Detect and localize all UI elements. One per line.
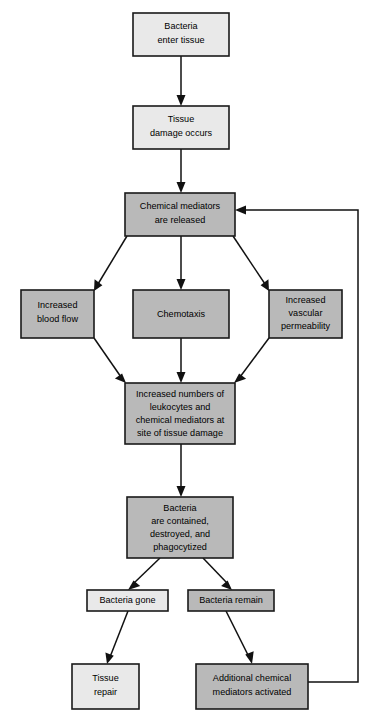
node-label-line: Increased — [38, 300, 78, 310]
node-label-line: enter tissue — [157, 35, 204, 45]
node-label-line: Additional chemical — [213, 673, 291, 683]
node-increased-vascular-permeability[interactable]: Increased vascular permeability — [269, 290, 342, 338]
node-label-line: blood flow — [37, 314, 78, 324]
node-label-line: vascular — [289, 308, 323, 318]
edge-mediators-to-chemotaxis — [177, 236, 186, 290]
node-label-line: Bacteria remain — [199, 595, 263, 605]
node-label-line: are released — [155, 215, 206, 225]
node-bacteria-enter-tissue[interactable]: Bacteria enter tissue — [133, 13, 229, 56]
edge-enter-to-damage — [177, 56, 186, 106]
node-label-line: mediators activated — [213, 687, 292, 697]
node-additional-chemical-mediators-activated[interactable]: Additional chemical mediators activated — [196, 664, 308, 709]
node-label-line: phagocytized — [153, 542, 207, 552]
edge-contained-to-remain — [203, 558, 232, 590]
node-label-line: Bacteria — [163, 503, 197, 513]
edge-contained-to-gone — [128, 558, 160, 590]
node-increased-blood-flow[interactable]: Increased blood flow — [21, 290, 94, 338]
node-label-line: Bacteria — [164, 21, 198, 31]
node-label-line: destroyed, and — [150, 529, 210, 539]
node-label-line: site of tissue damage — [137, 428, 223, 438]
node-increased-numbers-leukocytes[interactable]: Increased numbers of leukocytes and chem… — [125, 383, 235, 444]
node-label-line: permeability — [281, 321, 330, 331]
node-tissue-repair[interactable]: Tissue repair — [72, 664, 139, 709]
node-label-line: Tissue — [168, 114, 194, 124]
edge-gone-to-repair — [105, 611, 128, 664]
node-bacteria-contained-destroyed[interactable]: Bacteria are contained, destroyed, and p… — [127, 497, 233, 558]
flowchart-canvas: Bacteria enter tissue Tissue damage occu… — [0, 0, 378, 720]
edge-blood-flow-to-leukocytes — [94, 338, 126, 383]
node-label-line: chemical mediators at — [136, 415, 225, 425]
node-tissue-damage-occurs[interactable]: Tissue damage occurs — [133, 106, 229, 149]
edge-layer — [94, 56, 358, 682]
node-label-line: repair — [94, 687, 117, 697]
edge-damage-to-mediators — [177, 149, 186, 193]
edge-mediators-to-blood-flow — [94, 236, 127, 291]
node-label-line: leukocytes and — [150, 402, 211, 412]
node-label-line: Increased — [286, 295, 326, 305]
edge-remain-to-additional — [226, 611, 254, 664]
flowchart-diagram: Bacteria enter tissue Tissue damage occu… — [0, 0, 378, 720]
node-bacteria-gone[interactable]: Bacteria gone — [87, 590, 168, 611]
node-label-line: Chemical mediators — [140, 201, 221, 211]
node-label-line: are contained, — [151, 516, 209, 526]
node-chemical-mediators-released[interactable]: Chemical mediators are released — [125, 193, 235, 236]
node-bacteria-remain[interactable]: Bacteria remain — [188, 590, 274, 611]
edge-permeability-to-leukocytes — [234, 338, 269, 383]
node-label-line: Chemotaxis — [157, 309, 205, 319]
node-label-line: damage occurs — [150, 128, 213, 138]
node-label-line: Tissue — [92, 673, 118, 683]
edge-chemotaxis-to-leukocytes — [177, 338, 186, 383]
edge-leukocytes-to-contained — [177, 444, 186, 497]
node-chemotaxis[interactable]: Chemotaxis — [133, 290, 229, 338]
node-label-line: Bacteria gone — [99, 595, 155, 605]
edge-mediators-to-permeability — [233, 236, 269, 291]
node-label-line: Increased numbers of — [136, 389, 224, 399]
